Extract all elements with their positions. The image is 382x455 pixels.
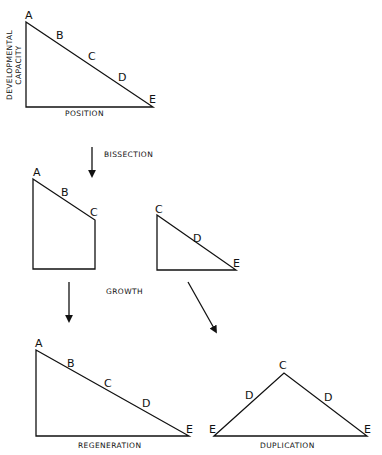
regeneration-triangle — [36, 350, 189, 436]
y-axis-label-line2: CAPACITY — [14, 30, 23, 100]
dup-vertex-d-left: D — [245, 389, 253, 402]
growth-label: GROWTH — [106, 287, 143, 296]
regen-vertex-c: C — [104, 377, 112, 390]
regen-vertex-a: A — [35, 337, 43, 350]
dup-vertex-d-right: D — [324, 391, 332, 404]
right-vertex-e: E — [233, 257, 240, 270]
duplication-triangle — [214, 373, 367, 436]
top-vertex-b: B — [56, 29, 64, 42]
right-vertex-c: C — [155, 203, 163, 216]
diagram-lines — [0, 0, 382, 455]
x-axis-label: POSITION — [65, 109, 104, 118]
regeneration-label: REGENERATION — [78, 441, 141, 450]
regen-vertex-b: B — [67, 357, 75, 370]
regen-vertex-e: E — [186, 423, 193, 436]
top-vertex-c: C — [88, 50, 96, 63]
right-vertex-d: D — [193, 232, 201, 245]
regen-vertex-d: D — [142, 397, 150, 410]
y-axis-label-line1: DEVELOPMENTAL — [5, 30, 14, 100]
bissection-label: BISSECTION — [104, 150, 153, 159]
top-vertex-d: D — [118, 71, 126, 84]
dup-vertex-c: C — [279, 359, 287, 372]
growth-arrow-right — [188, 282, 215, 330]
left-vertex-a: A — [33, 166, 41, 179]
y-axis-label: DEVELOPMENTAL CAPACITY — [5, 30, 23, 100]
top-gradient-triangle — [26, 22, 153, 107]
top-vertex-a: A — [25, 9, 33, 22]
dup-vertex-e-right: E — [364, 423, 371, 436]
duplication-label: DUPLICATION — [260, 441, 315, 450]
regeneration-duplication-diagram: A B C D E DEVELOPMENTAL CAPACITY POSITIO… — [0, 0, 382, 455]
dup-vertex-e-left: E — [209, 423, 216, 436]
left-vertex-b: B — [61, 186, 69, 199]
left-vertex-c: C — [90, 206, 98, 219]
top-vertex-e: E — [149, 93, 156, 106]
